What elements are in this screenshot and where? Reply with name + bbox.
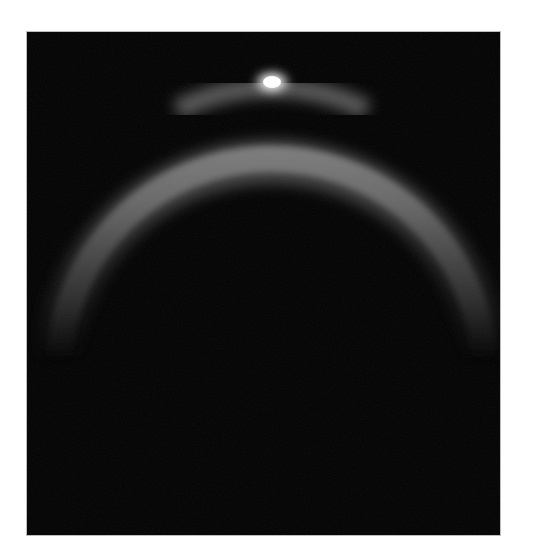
ring-arc-graphic bbox=[27, 32, 500, 535]
bright-spot-icon bbox=[263, 76, 281, 88]
image-panel: Dark field with a faint glowing circular… bbox=[27, 32, 500, 535]
